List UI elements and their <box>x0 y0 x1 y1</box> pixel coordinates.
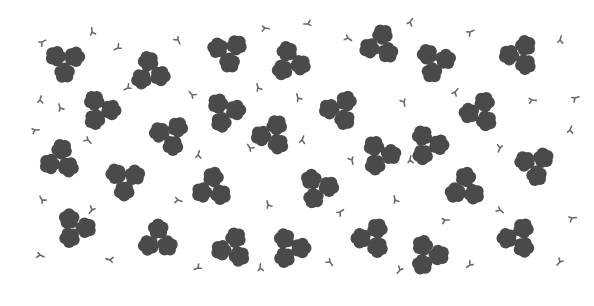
flower-cluster <box>192 167 231 205</box>
sprig-mark <box>30 126 39 135</box>
flower-cluster <box>211 228 249 267</box>
flower-cluster <box>359 24 398 62</box>
flower-cluster <box>208 93 246 132</box>
sprig-mark <box>440 216 449 225</box>
sprig-mark <box>326 258 334 265</box>
flower-cluster <box>412 126 450 166</box>
sprig-mark <box>194 151 203 160</box>
flower-cluster <box>319 91 357 130</box>
sprig-mark <box>298 136 306 145</box>
sprig-mark <box>36 96 45 105</box>
sprig-mark <box>407 19 414 27</box>
sprig-mark <box>254 84 263 93</box>
sprig-mark <box>84 137 91 143</box>
sprig-mark <box>391 196 400 205</box>
sprig-mark <box>452 89 458 96</box>
flower-cluster <box>274 228 312 268</box>
sprig-mark <box>38 38 46 47</box>
flower-cluster <box>459 92 497 131</box>
flower-cluster <box>364 136 402 176</box>
flower-cluster <box>301 169 339 208</box>
sprig-mark <box>189 92 197 99</box>
sprig-mark <box>496 143 504 152</box>
flower-cluster <box>417 44 456 82</box>
sprig-mark <box>194 263 202 272</box>
sprig-mark <box>399 97 408 106</box>
sprig-mark <box>173 36 182 44</box>
sprig-mark <box>247 145 255 152</box>
sprig-mark <box>397 266 404 273</box>
sprig-mark <box>89 206 96 214</box>
flower-cluster <box>499 35 536 75</box>
sprig-mark <box>344 35 352 42</box>
sprig-mark <box>496 207 503 214</box>
pattern-image <box>0 0 594 306</box>
flower-cluster <box>207 35 246 72</box>
sprig-mark <box>88 28 97 37</box>
sprig-mark <box>570 94 579 103</box>
sprig-mark <box>304 19 313 28</box>
sprig-mark <box>294 94 303 103</box>
sprig-mark <box>566 126 574 135</box>
sprig-mark <box>260 24 269 33</box>
sprig-mark <box>114 43 122 52</box>
flower-pattern <box>0 0 594 306</box>
flower-cluster <box>514 148 553 186</box>
sprig-mark <box>556 36 565 45</box>
flower-cluster <box>445 167 484 205</box>
sprig-mark <box>466 28 474 37</box>
sprig-mark <box>336 209 343 217</box>
flower-cluster <box>412 235 449 274</box>
sprig-mark <box>264 201 273 210</box>
flower-cluster <box>84 91 122 130</box>
sprig-mark <box>527 96 536 105</box>
flower-cluster <box>46 46 85 83</box>
sprig-mark <box>124 83 132 92</box>
sprig-mark <box>38 196 46 204</box>
sprig-mark <box>35 251 44 259</box>
flower-cluster <box>131 51 171 89</box>
sprig-mark <box>347 155 356 164</box>
sprig-mark <box>466 261 473 269</box>
flower-cluster <box>40 139 79 177</box>
sprig-mark <box>173 196 182 204</box>
flower-cluster <box>105 164 145 202</box>
flower-cluster <box>351 218 388 258</box>
sprig-mark <box>567 214 576 223</box>
sprig-mark <box>256 264 265 273</box>
flower-cluster <box>59 208 96 248</box>
flower-cluster <box>138 219 178 256</box>
flower-cluster <box>251 115 288 154</box>
sprig-mark <box>557 258 563 265</box>
flower-cluster <box>149 117 188 156</box>
flower-cluster <box>272 41 311 80</box>
sprig-mark <box>56 104 65 113</box>
flower-cluster <box>497 218 535 257</box>
sprig-mark <box>106 256 115 264</box>
